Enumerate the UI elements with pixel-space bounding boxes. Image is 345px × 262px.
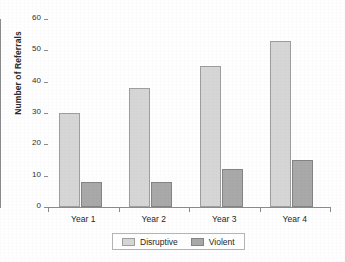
x-tick-mark [48,208,49,212]
y-tick-label: 0 [37,201,41,210]
x-axis-label: Year 1 [48,214,119,224]
chart-legend: DisruptiveViolent [112,233,245,250]
y-axis-tick: 50 [0,50,48,51]
x-axis-label: Year 2 [119,214,190,224]
bar-violent-4 [292,160,313,207]
x-tick-mark [330,208,331,212]
x-tick-mark [119,208,120,212]
bar-disruptive-4 [270,41,291,207]
y-axis-tick: 30 [0,113,48,114]
bar-violent-3 [222,169,243,207]
y-tick-label: 30 [32,107,41,116]
y-tick-label: 20 [32,138,41,147]
legend-swatch-icon [191,238,204,246]
x-axis-label: Year 3 [189,214,260,224]
legend-item-violent[interactable]: Violent [191,237,235,247]
y-axis-tick: 0 [0,207,48,208]
plot-bars-area [48,19,330,207]
x-tick-mark [260,208,261,212]
x-tick-mark [189,208,190,212]
legend-swatch-icon [122,238,135,246]
y-tick-label: 60 [32,13,41,22]
legend-item-label: Violent [209,237,235,247]
bar-disruptive-1 [59,113,80,207]
legend-item-label: Disruptive [140,237,178,247]
y-axis-tick: 60 [0,19,48,20]
bar-chart-figure: Number of Referrals 6050403020100 Year 1… [0,0,345,262]
y-axis-tick: 20 [0,144,48,145]
y-tick-label: 40 [32,76,41,85]
y-axis-title: Number of Referrals [13,18,23,128]
bar-disruptive-2 [129,88,150,207]
y-axis-tick: 40 [0,82,48,83]
y-tick-label: 50 [32,44,41,53]
y-axis-tick: 10 [0,176,48,177]
legend-item-disruptive[interactable]: Disruptive [122,237,178,247]
bar-disruptive-3 [200,66,221,207]
bar-violent-1 [81,182,102,207]
x-axis-label: Year 4 [260,214,331,224]
y-tick-label: 10 [32,170,41,179]
bar-violent-2 [151,182,172,207]
